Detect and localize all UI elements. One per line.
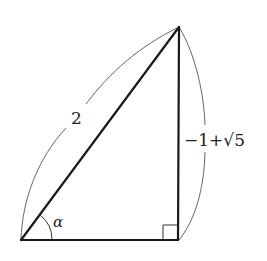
hypotenuse-label: 2 — [71, 108, 82, 128]
angle-alpha-arc — [40, 215, 52, 240]
angle-alpha-label: α — [53, 213, 63, 231]
vertical-edge — [178, 27, 179, 240]
right-triangle-diagram: 2 −1+√5 α — [0, 0, 267, 261]
vertical-dimension-arc-upper — [179, 27, 205, 125]
hypotenuse-edge — [21, 27, 179, 240]
vertical-side-label: −1+√5 — [184, 130, 245, 150]
hypotenuse-dimension-arc-upper — [86, 27, 179, 104]
vertical-dimension-arc-lower — [179, 152, 205, 240]
right-angle-marker — [163, 225, 178, 240]
